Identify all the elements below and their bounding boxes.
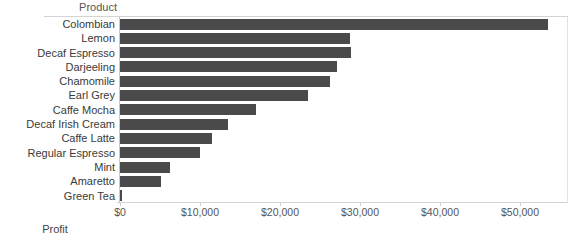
- bar-row[interactable]: Caffe Latte: [0, 131, 580, 145]
- bar-track: [120, 47, 351, 58]
- bar-row-label[interactable]: Chamomile: [59, 75, 115, 87]
- bar-chart-viz: Product ColombianLemonDecaf EspressoDarj…: [0, 0, 580, 245]
- bar-mark[interactable]: [120, 104, 256, 115]
- bar-mark[interactable]: [120, 133, 212, 144]
- bar-row-label[interactable]: Lemon: [81, 32, 115, 44]
- bar-mark[interactable]: [120, 90, 308, 101]
- bar-row-label[interactable]: Amaretto: [70, 175, 115, 187]
- x-axis-tick-label: $10,000: [181, 206, 219, 218]
- bar-row[interactable]: Decaf Irish Cream: [0, 117, 580, 131]
- x-axis: Profit $0$10,000$20,000$30,000$40,000$50…: [0, 203, 580, 245]
- bar-track: [120, 162, 170, 173]
- x-axis-title: Profit: [0, 223, 580, 235]
- bar-row[interactable]: Darjeeling: [0, 60, 580, 74]
- x-axis-tick-label: $30,000: [341, 206, 379, 218]
- x-axis-tick-label: $40,000: [421, 206, 459, 218]
- bar-mark[interactable]: [120, 119, 228, 130]
- x-axis-tick-label: $50,000: [501, 206, 539, 218]
- bar-row-label[interactable]: Caffe Latte: [61, 132, 115, 144]
- bar-mark[interactable]: [120, 162, 170, 173]
- bar-row[interactable]: Colombian: [0, 17, 580, 31]
- bar-row-label[interactable]: Green Tea: [64, 190, 115, 202]
- bar-track: [120, 190, 122, 201]
- x-axis-title-text: Profit: [42, 223, 68, 235]
- bar-mark[interactable]: [120, 61, 337, 72]
- bar-row[interactable]: Mint: [0, 160, 580, 174]
- bar-row-label[interactable]: Decaf Espresso: [37, 47, 115, 59]
- x-axis-tick-label: $0: [114, 206, 126, 218]
- bar-row-label[interactable]: Darjeeling: [65, 61, 115, 73]
- bar-row[interactable]: Amaretto: [0, 174, 580, 188]
- bar-row[interactable]: Lemon: [0, 31, 580, 45]
- bar-track: [120, 147, 200, 158]
- row-field-header-product[interactable]: Product: [79, 1, 117, 13]
- bar-mark[interactable]: [120, 33, 350, 44]
- bar-row[interactable]: Decaf Espresso: [0, 46, 580, 60]
- bar-row[interactable]: Regular Espresso: [0, 146, 580, 160]
- bar-row-label[interactable]: Decaf Irish Cream: [26, 118, 115, 130]
- bar-track: [120, 176, 161, 187]
- bar-row[interactable]: Chamomile: [0, 74, 580, 88]
- bar-track: [120, 76, 330, 87]
- bar-row[interactable]: Caffe Mocha: [0, 103, 580, 117]
- bar-row[interactable]: Earl Grey: [0, 88, 580, 102]
- bar-track: [120, 90, 308, 101]
- bar-track: [120, 19, 548, 30]
- bar-row[interactable]: Green Tea: [0, 189, 580, 203]
- bar-mark[interactable]: [120, 19, 548, 30]
- bar-row-label[interactable]: Earl Grey: [69, 89, 115, 101]
- bar-track: [120, 119, 228, 130]
- x-axis-tick-label: $20,000: [261, 206, 299, 218]
- bar-rows-container: ColombianLemonDecaf EspressoDarjeelingCh…: [0, 17, 580, 203]
- bar-mark[interactable]: [120, 47, 351, 58]
- bar-mark[interactable]: [120, 147, 200, 158]
- row-header-band: Product: [0, 0, 580, 17]
- bar-track: [120, 133, 212, 144]
- bar-row-label[interactable]: Colombian: [62, 18, 115, 30]
- bar-mark[interactable]: [120, 190, 122, 201]
- bar-mark[interactable]: [120, 76, 330, 87]
- bar-track: [120, 104, 256, 115]
- bar-track: [120, 61, 337, 72]
- bar-mark[interactable]: [120, 176, 161, 187]
- bar-track: [120, 33, 350, 44]
- bar-row-label[interactable]: Mint: [94, 161, 115, 173]
- bar-row-label[interactable]: Regular Espresso: [28, 147, 115, 159]
- bar-row-label[interactable]: Caffe Mocha: [53, 104, 115, 116]
